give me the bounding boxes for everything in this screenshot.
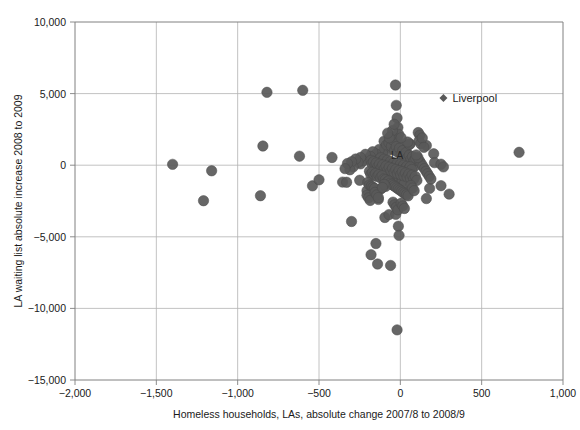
chart-canvas: LiverpoolLA −2,000−1,500−1,000−50005001,… [0, 0, 580, 430]
liverpool-label: Liverpool [452, 92, 497, 104]
x-tick-label: −1,000 [221, 387, 254, 399]
data-point [389, 119, 399, 129]
data-point [371, 238, 381, 248]
data-point [391, 100, 401, 110]
x-tick-label: 1,000 [550, 387, 576, 399]
data-point [382, 128, 392, 138]
data-point [346, 216, 356, 226]
data-point [327, 152, 337, 162]
data-point [366, 250, 376, 260]
x-axis-title: Homeless households, LAs, absolute chang… [173, 408, 465, 420]
data-point [377, 182, 387, 192]
data-point [424, 183, 434, 193]
data-point [392, 325, 402, 335]
data-point [436, 180, 446, 190]
data-point [294, 151, 304, 161]
data-point [396, 133, 406, 143]
la-cluster-label: LA [391, 150, 404, 161]
x-tick-label: 500 [473, 387, 491, 399]
data-point [419, 142, 429, 152]
data-point [409, 185, 419, 195]
y-tick-label: 10,000 [34, 16, 66, 28]
y-tick-label: 0 [60, 159, 66, 171]
y-tick-label: −5,000 [34, 231, 67, 243]
data-point [421, 193, 431, 203]
data-point [394, 230, 404, 240]
data-point [255, 191, 265, 201]
data-point [206, 166, 216, 176]
data-point [340, 163, 350, 173]
data-point [341, 177, 351, 187]
data-point [198, 196, 208, 206]
data-point [385, 260, 395, 270]
x-tick-label: −500 [307, 387, 331, 399]
data-point [393, 221, 403, 231]
data-point [399, 203, 409, 213]
data-point [417, 133, 427, 143]
data-point [314, 175, 324, 185]
y-tick-label: −10,000 [28, 302, 66, 314]
data-point [372, 259, 382, 269]
data-point [390, 80, 400, 90]
data-point [262, 87, 272, 97]
data-point [438, 162, 448, 172]
data-point [373, 192, 383, 202]
y-axis-title: LA waiting list absolute increase 2008 t… [12, 94, 24, 307]
x-tick-label: −1,500 [140, 387, 173, 399]
data-point [426, 174, 436, 184]
data-point [167, 159, 177, 169]
data-point [514, 147, 524, 157]
data-point [444, 189, 454, 199]
chart-background [0, 0, 580, 430]
data-point [258, 141, 268, 151]
y-tick-label: −15,000 [28, 374, 66, 386]
x-tick-label: 0 [397, 387, 403, 399]
scatter-chart: LiverpoolLA −2,000−1,500−1,000−50005001,… [0, 0, 580, 430]
x-tick-label: −2,000 [59, 387, 92, 399]
data-point [298, 85, 308, 95]
y-tick-label: 5,000 [40, 88, 66, 100]
data-point [411, 150, 421, 160]
